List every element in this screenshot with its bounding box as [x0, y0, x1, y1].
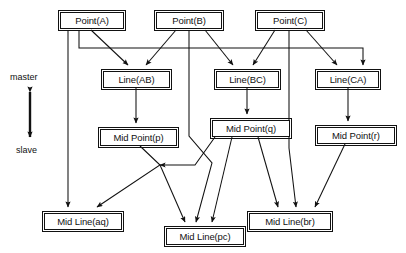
- node-point_a[interactable]: Point(A): [60, 12, 124, 29]
- node-label: Mid Point(p): [113, 133, 163, 143]
- node-label: Line(BC): [229, 75, 266, 85]
- node-point_b[interactable]: Point(B): [156, 12, 222, 29]
- edge-p-to-pc: [160, 165, 185, 222]
- edge-q-to-pc: [212, 137, 232, 222]
- node-mid_line_pc[interactable]: Mid Line(pc): [166, 228, 244, 245]
- edge-b-to-pc: [189, 30, 212, 222]
- node-mid_line_br[interactable]: Mid Line(br): [249, 213, 331, 230]
- node-label: Mid Point(q): [226, 124, 276, 134]
- node-line_bc[interactable]: Line(BC): [216, 71, 279, 88]
- node-label: Mid Line(br): [265, 217, 314, 227]
- diagram-canvas: master slave Point(A)Point(B)Point(C)Lin…: [0, 0, 406, 253]
- node-line_ca[interactable]: Line(CA): [317, 71, 379, 88]
- edge-c-to-br: [289, 30, 296, 207]
- edge-a-to-ca: [79, 30, 363, 65]
- node-mid_point_r[interactable]: Mid Point(r): [317, 127, 395, 144]
- edge-r-to-br: [315, 144, 345, 207]
- node-label: Point(B): [172, 16, 206, 26]
- node-label: Mid Point(r): [332, 131, 380, 141]
- edge-q-to-br: [258, 137, 278, 207]
- edge-p-to-aq: [97, 146, 160, 207]
- node-mid_line_aq[interactable]: Mid Line(aq): [44, 213, 122, 230]
- legend-slave-label: slave: [16, 145, 37, 155]
- node-label: Line(CA): [330, 75, 367, 85]
- node-mid_point_p[interactable]: Mid Point(p): [100, 129, 177, 146]
- node-label: Mid Line(aq): [57, 217, 109, 227]
- node-label: Point(A): [75, 16, 109, 26]
- node-label: Line(AB): [118, 75, 154, 85]
- node-label: Mid Line(pc): [179, 232, 230, 242]
- node-point_c[interactable]: Point(C): [257, 12, 323, 29]
- node-line_ab[interactable]: Line(AB): [103, 71, 170, 88]
- legend-master-label: master: [10, 72, 38, 82]
- node-label: Point(C): [273, 16, 307, 26]
- node-mid_point_q[interactable]: Mid Point(q): [212, 120, 290, 137]
